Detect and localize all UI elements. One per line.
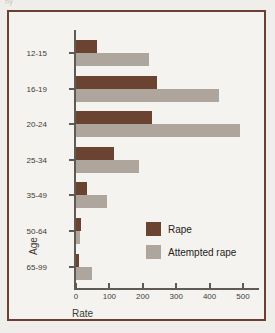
- y-tick-12-15: [69, 52, 75, 54]
- y-tick-50-64: [69, 230, 75, 232]
- legend-item-rape: Rape: [146, 222, 236, 236]
- y-tick-25-34: [69, 159, 75, 161]
- chart-legend: Rape Attempted rape: [146, 222, 236, 268]
- chart-frame: 12-1516-1920-2425-3435-4950-6465-99 0100…: [7, 10, 266, 321]
- x-tick-label-300: 300: [170, 292, 183, 301]
- bar-rape-35-49: [76, 182, 87, 195]
- y-tick-label-16-19: 16-19: [27, 84, 47, 93]
- bar-rape-16-19: [76, 76, 157, 89]
- bar-attempted-rape-20-24: [76, 124, 240, 137]
- y-axis-title: Age: [28, 237, 39, 255]
- legend-label-attempted-rape: Attempted rape: [168, 247, 236, 258]
- y-tick-65-99: [69, 266, 75, 268]
- bar-attempted-rape-25-34: [76, 160, 139, 173]
- legend-item-attempted-rape: Attempted rape: [146, 245, 236, 259]
- bar-attempted-rape-35-49: [76, 195, 107, 208]
- x-tick-200: [142, 283, 144, 289]
- y-tick-label-20-24: 20-24: [27, 120, 47, 129]
- bar-rape-12-15: [76, 40, 97, 53]
- x-tick-label-100: 100: [103, 292, 116, 301]
- x-tick-label-400: 400: [203, 292, 216, 301]
- y-tick-label-12-15: 12-15: [27, 49, 47, 58]
- x-tick-0: [75, 283, 77, 289]
- bar-rape-50-64: [76, 218, 81, 231]
- bar-rape-65-99: [76, 254, 79, 267]
- y-tick-label-50-64: 50-64: [27, 227, 47, 236]
- bar-attempted-rape-65-99: [76, 267, 92, 280]
- x-tick-label-0: 0: [74, 292, 78, 301]
- y-tick-16-19: [69, 88, 75, 90]
- x-tick-label-200: 200: [136, 292, 149, 301]
- bar-attempted-rape-16-19: [76, 89, 219, 102]
- x-axis-title: Rate: [72, 308, 93, 319]
- legend-label-rape: Rape: [168, 224, 192, 235]
- bar-attempted-rape-12-15: [76, 53, 149, 66]
- bar-attempted-rape-50-64: [76, 231, 80, 244]
- x-tick-100: [108, 283, 110, 289]
- x-tick-300: [175, 283, 177, 289]
- x-tick-label-500: 500: [236, 292, 249, 301]
- legend-swatch-rape: [146, 222, 161, 236]
- x-axis-line: [74, 288, 259, 290]
- bar-rape-20-24: [76, 111, 152, 124]
- y-tick-label-25-34: 25-34: [27, 155, 47, 164]
- x-tick-500: [242, 283, 244, 289]
- bar-chart-plot: 12-1516-1920-2425-3435-4950-6465-99 0100…: [9, 12, 264, 319]
- y-tick-35-49: [69, 194, 75, 196]
- bar-rape-25-34: [76, 147, 114, 160]
- x-tick-400: [209, 283, 211, 289]
- y-tick-20-24: [69, 123, 75, 125]
- legend-swatch-attempted-rape: [146, 245, 161, 259]
- y-tick-label-35-49: 35-49: [27, 191, 47, 200]
- y-tick-label-65-99: 65-99: [27, 262, 47, 271]
- scan-edge-artifact: ny: [5, 0, 13, 7]
